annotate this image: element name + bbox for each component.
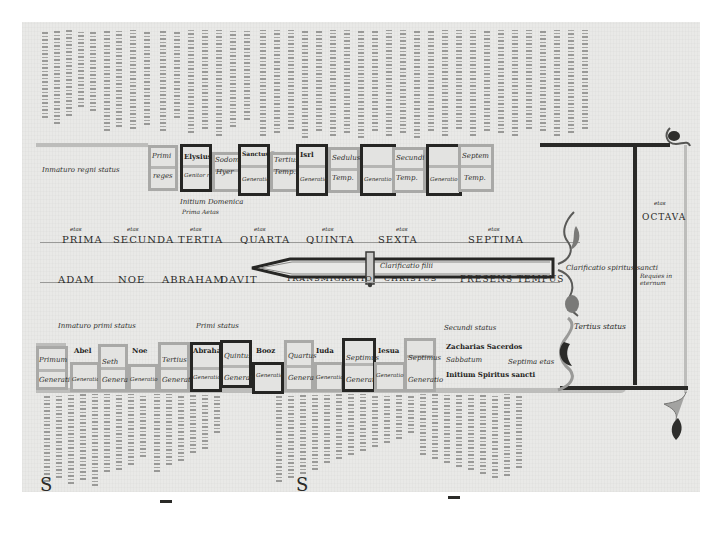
age-1-superscript: etas	[70, 226, 82, 232]
lower-left-label: Inmaturo primi status	[58, 322, 136, 330]
lower-box-10-bottom: Generatio	[316, 374, 344, 380]
age-6-label: SEXTA	[378, 234, 418, 245]
upper-box-7-top: Sedulus	[332, 154, 360, 162]
octava-superscript: etas	[654, 200, 666, 206]
top-right-corner-ornament	[664, 124, 692, 150]
initial-i-mark-2	[448, 496, 460, 499]
bottom-right-corner-ornament	[656, 390, 688, 444]
octava-note: Requies in eternum	[640, 272, 684, 286]
lower-box-12-bottom: Generatio	[376, 372, 404, 378]
upper-box-6-bottom: Generatio	[300, 176, 328, 182]
patriarch-noe: NOE	[118, 274, 145, 285]
upper-box-1-bottom: reges	[153, 172, 173, 180]
upper-box-2-top: Elysius	[184, 152, 212, 161]
lower-text-block	[40, 394, 600, 492]
lower-box-2-bottom: Generatio	[72, 376, 100, 382]
note-sabbatum: Sabbatum	[446, 356, 482, 364]
upper-box-11-bottom: Temp.	[464, 174, 486, 182]
upper-box-8	[360, 144, 396, 196]
upper-flourish-ornament	[556, 210, 586, 266]
tertius-status-label: Tertius status	[574, 322, 626, 331]
age-7-superscript: etas	[488, 226, 500, 232]
sword-blade-label: Clarificatio filii	[380, 262, 433, 270]
lower-box-5	[158, 342, 190, 392]
lower-box-9	[284, 340, 314, 392]
lower-box-7-top: Quintus	[224, 352, 252, 360]
upper-box-9-top: Secundi	[396, 154, 425, 162]
lower-band-dragon-ornament	[548, 316, 580, 392]
initial-s-left: S	[40, 474, 53, 495]
patriarch-david: DAVIT	[220, 274, 258, 285]
lower-box-4-bottom: Generatio	[130, 376, 158, 382]
upper-box-7-bottom: Temp.	[332, 174, 354, 182]
lower-box-2-top: Abel	[74, 346, 91, 355]
lower-box-8	[252, 362, 284, 394]
note-secundi-status: Secundi status	[444, 324, 496, 332]
upper-band-rail	[36, 143, 148, 147]
upper-note-prima-aetas: Prima Aetas	[182, 208, 219, 215]
lower-box-3	[98, 344, 128, 392]
lower-box-13-top: Septimus	[408, 354, 441, 362]
upper-box-9-bottom: Temp.	[396, 174, 418, 182]
manuscript-scan: Inmaturo regni status Primi reges Elysiu…	[0, 0, 724, 536]
lower-box-1-top: Primum	[39, 356, 67, 364]
upper-box-6-top: Isrl	[300, 150, 314, 159]
age-7-label: SEPTIMA	[468, 234, 524, 245]
age-5-superscript: etas	[322, 226, 334, 232]
upper-box-1-top: Primi	[152, 152, 171, 160]
upper-box-4-bottom: Generatio	[242, 176, 270, 182]
upper-box-11-top: Septem	[462, 152, 489, 160]
octava-title: OCTAVA	[642, 212, 686, 222]
age-4-superscript: etas	[254, 226, 266, 232]
age-6-superscript: etas	[396, 226, 408, 232]
initial-s-middle: S	[296, 474, 309, 495]
upper-band-dark-rail	[540, 143, 670, 147]
patriarch-christus: CHRISTUS	[384, 274, 437, 283]
initial-i-mark-1	[160, 500, 172, 503]
age-2-superscript: etas	[127, 226, 139, 232]
lower-box-5-top: Tertius	[162, 356, 187, 364]
patriarch-presens-tempus: PRESENS TEMPUS	[460, 274, 564, 284]
age-5-label: QUINTA	[306, 234, 355, 245]
patriarch-abraham: ABRAHAM	[162, 274, 225, 285]
upper-box-10-top: Generatio	[430, 176, 458, 182]
age-1-label: PRIMA	[62, 234, 103, 245]
lower-box-1-bottom: Generatio	[39, 376, 74, 384]
patriarch-adam: ADAM	[58, 274, 95, 285]
upper-box-5-bottom: Temp.	[274, 168, 296, 176]
upper-left-label: Inmaturo regni status	[42, 166, 120, 174]
lower-box-8-top: Booz	[256, 346, 275, 355]
age-4-label: QUARTA	[240, 234, 290, 245]
note-initium-spiritus: Initium Spiritus sancti	[446, 370, 535, 379]
lower-box-4-top: Noe	[132, 346, 148, 355]
upper-note-initium: Initium Domenica	[180, 198, 243, 206]
lower-box-6-bottom: Generatio	[193, 374, 221, 380]
age-2-label: SECUNDA	[113, 234, 174, 245]
upper-box-10	[426, 144, 462, 196]
lower-box-9-top: Quartus	[288, 352, 317, 360]
patriarch-transmigratio: TRANSMIGRATIO	[286, 274, 373, 283]
age-3-superscript: etas	[190, 226, 202, 232]
upper-box-8-top: Generatio	[364, 176, 392, 182]
upper-box-3-bottom: Hyer	[216, 168, 234, 176]
lower-box-11-top: Septimus	[346, 354, 379, 362]
note-zacharias: Zacharias Sacerdos	[446, 342, 522, 351]
right-frame-right-rule	[684, 145, 687, 393]
upper-text-block	[40, 30, 600, 140]
lower-box-12-top: Iesua	[378, 346, 399, 355]
age-3-label: TERTIA	[178, 234, 223, 245]
lower-mid-label: Primi status	[196, 322, 239, 330]
lower-box-13-bottom: Generatio	[408, 376, 443, 384]
lower-box-10-top: Iuda	[316, 346, 334, 355]
lower-box-3-top: Seth	[102, 358, 118, 366]
lower-box-8-bottom: Generatio	[256, 372, 284, 378]
